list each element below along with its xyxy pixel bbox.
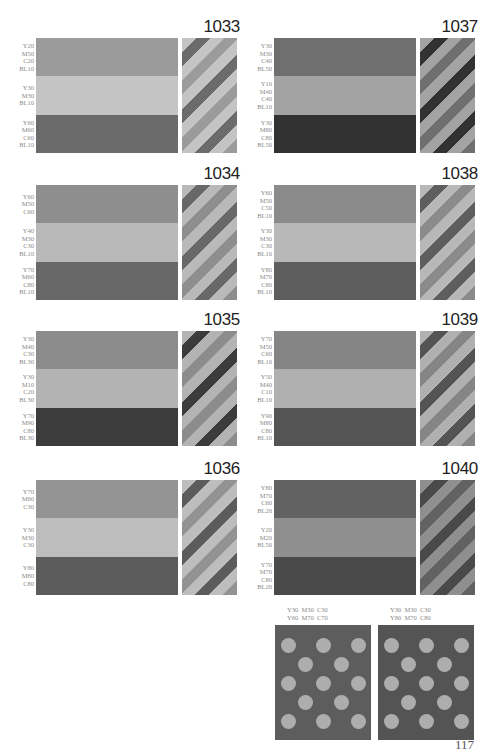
swatch-block-1039: 1039Y70M50C60BL10Y50M40C10BL10Y90M80C80B… bbox=[238, 311, 478, 461]
swatch-number: 1040 bbox=[441, 460, 478, 478]
band-label: Y70M70C80BL20 bbox=[238, 561, 272, 591]
diagonal-stripe-swatch bbox=[182, 331, 237, 446]
color-bands bbox=[274, 331, 416, 446]
dot-icon bbox=[401, 695, 416, 710]
color-band bbox=[36, 480, 178, 519]
swatch-number: 1039 bbox=[441, 311, 478, 329]
color-bands bbox=[274, 38, 416, 153]
color-band bbox=[36, 115, 178, 154]
dot-icon bbox=[419, 714, 434, 729]
dot-swatch-label: Y30 M30 C30 Y60 M70 C70 bbox=[287, 606, 328, 621]
color-band bbox=[36, 369, 178, 408]
polka-dot-swatch bbox=[378, 625, 474, 740]
polka-dot-swatch bbox=[275, 625, 371, 740]
dot-icon bbox=[437, 657, 452, 672]
color-band bbox=[36, 518, 178, 557]
dot-icon bbox=[281, 714, 296, 729]
swatch-block-1033: 1033Y20M50C20BL10Y30M30BL10Y60M60C60BL10 bbox=[0, 18, 240, 168]
band-label: Y60M50C50BL10 bbox=[238, 189, 272, 219]
swatch-block-1037: 1037Y30M30C40BL50Y10M40C40BL10Y30M80C80B… bbox=[238, 18, 478, 168]
dot-icon bbox=[419, 638, 434, 653]
color-band bbox=[36, 262, 178, 301]
band-label: Y60M50C60 bbox=[0, 193, 34, 216]
color-bands bbox=[36, 38, 178, 153]
band-label: Y20M20BL50 bbox=[238, 526, 272, 549]
swatch-number: 1035 bbox=[203, 311, 240, 329]
band-label: Y80M70C60BL20 bbox=[238, 484, 272, 514]
band-label: Y70M90C80BL30 bbox=[0, 412, 34, 442]
diagonal-stripe-swatch bbox=[420, 331, 475, 446]
dot-icon bbox=[454, 676, 469, 691]
swatch-block-1036: 1036Y70M60C30Y30M30C30Y80M80C80 bbox=[0, 460, 240, 610]
dot-icon bbox=[298, 657, 313, 672]
color-band bbox=[274, 369, 416, 408]
color-band bbox=[274, 76, 416, 115]
color-band bbox=[274, 262, 416, 301]
band-label: Y30M30BL10 bbox=[0, 84, 34, 107]
dot-icon bbox=[384, 676, 399, 691]
dot-icon bbox=[384, 638, 399, 653]
dot-icon bbox=[316, 638, 331, 653]
band-label: Y10M40C40BL10 bbox=[238, 80, 272, 110]
dot-icon bbox=[351, 714, 366, 729]
page-number: 117 bbox=[455, 737, 474, 752]
dot-icon bbox=[334, 657, 349, 672]
band-label: Y70M60C80BL10 bbox=[0, 266, 34, 296]
swatch-number: 1033 bbox=[203, 18, 240, 36]
dot-icon bbox=[351, 638, 366, 653]
diagonal-stripe-swatch bbox=[420, 480, 475, 595]
dot-icon bbox=[437, 695, 452, 710]
dot-icon bbox=[419, 676, 434, 691]
swatch-number: 1037 bbox=[441, 18, 478, 36]
diagonal-stripe-swatch bbox=[182, 480, 237, 595]
color-band bbox=[274, 223, 416, 262]
color-band bbox=[274, 38, 416, 77]
band-label: Y30M40C30BL30 bbox=[0, 335, 34, 365]
dot-icon bbox=[316, 676, 331, 691]
band-label: Y20M50C20BL10 bbox=[0, 42, 34, 72]
swatch-block-1038: 1038Y60M50C50BL10Y30M30C30BL10Y80M70C80B… bbox=[238, 165, 478, 315]
dot-icon bbox=[334, 695, 349, 710]
swatch-number: 1036 bbox=[203, 460, 240, 478]
diagonal-stripe-swatch bbox=[420, 38, 475, 153]
color-band bbox=[274, 480, 416, 519]
color-band bbox=[36, 557, 178, 596]
band-label: Y70M50C60BL10 bbox=[238, 335, 272, 365]
color-band bbox=[274, 115, 416, 154]
band-label: Y40M30C30BL10 bbox=[0, 227, 34, 257]
color-bands bbox=[274, 185, 416, 300]
color-band bbox=[274, 557, 416, 596]
color-band bbox=[36, 76, 178, 115]
dot-icon bbox=[281, 638, 296, 653]
band-label: Y30M30C40BL50 bbox=[238, 42, 272, 72]
swatch-number: 1038 bbox=[441, 165, 478, 183]
dot-swatch-label: Y30 M30 C30 Y80 M70 C80 bbox=[390, 606, 431, 621]
color-band bbox=[36, 223, 178, 262]
color-band bbox=[36, 185, 178, 224]
dot-icon bbox=[454, 714, 469, 729]
band-label: Y80M80C80 bbox=[0, 564, 34, 587]
color-bands bbox=[274, 480, 416, 595]
color-bands bbox=[36, 185, 178, 300]
color-band bbox=[274, 185, 416, 224]
swatch-block-1040: 1040Y80M70C60BL20Y20M20BL50Y70M70C80BL20 bbox=[238, 460, 478, 610]
color-band bbox=[36, 331, 178, 370]
swatch-block-1034: 1034Y60M50C60Y40M30C30BL10Y70M60C80BL10 bbox=[0, 165, 240, 315]
dot-icon bbox=[454, 638, 469, 653]
diagonal-stripe-swatch bbox=[420, 185, 475, 300]
color-band bbox=[36, 408, 178, 447]
dot-icon bbox=[281, 676, 296, 691]
band-label: Y60M60C60BL10 bbox=[0, 119, 34, 149]
band-label: Y80M70C80BL10 bbox=[238, 266, 272, 296]
diagonal-stripe-swatch bbox=[182, 38, 237, 153]
dot-icon bbox=[351, 676, 366, 691]
band-label: Y30M30C30 bbox=[0, 526, 34, 549]
band-label: Y50M40C10BL10 bbox=[238, 373, 272, 403]
dot-icon bbox=[316, 714, 331, 729]
dot-icon bbox=[401, 657, 416, 672]
band-label: Y90M80C80BL10 bbox=[238, 412, 272, 442]
swatch-block-1035: 1035Y30M40C30BL30Y30M10C20BL30Y70M90C80B… bbox=[0, 311, 240, 461]
band-label: Y30M10C20BL30 bbox=[0, 373, 34, 403]
color-bands bbox=[36, 331, 178, 446]
band-label: Y30M30C30BL10 bbox=[238, 227, 272, 257]
